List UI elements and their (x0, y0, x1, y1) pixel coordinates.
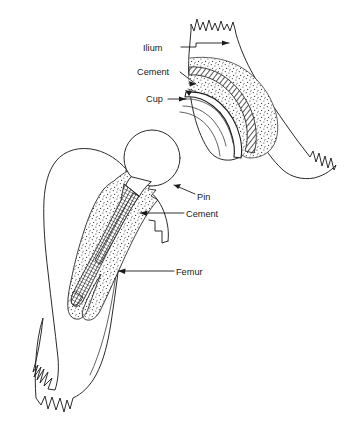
annotation-cement-femur[interactable]: Cement (140, 209, 219, 219)
annotation-femur[interactable]: Femur (118, 267, 203, 277)
femur-medial-cortex (149, 220, 168, 243)
annotation-cement-femur-label: Cement (186, 209, 219, 219)
annotation-cement-pelvis-label: Cement (137, 67, 170, 77)
annotation-pin-arrowhead (174, 184, 181, 189)
annotation-cement-pelvis[interactable]: Cement (137, 67, 196, 86)
annotation-pin[interactable]: Pin (174, 184, 210, 202)
annotation-pin-label: Pin (197, 192, 210, 202)
annotation-femur-label: Femur (176, 267, 203, 277)
annotation-cup[interactable]: Cup (146, 94, 186, 104)
annotation-ilium-label: Ilium (143, 43, 163, 53)
hip-replacement-diagram: Ilium Cement Cup Pin Cement (0, 0, 351, 438)
annotation-cup-label: Cup (146, 94, 163, 104)
